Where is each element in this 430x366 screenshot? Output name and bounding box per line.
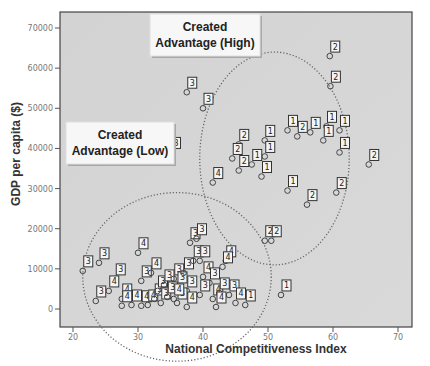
point-label: 2 bbox=[310, 191, 315, 200]
y-tick-label: 30000 bbox=[28, 185, 53, 194]
point-label: 2 bbox=[333, 73, 338, 82]
y-tick-label: 40000 bbox=[28, 144, 53, 153]
point-label: 1 bbox=[329, 113, 334, 122]
point-label: 4 bbox=[216, 169, 221, 178]
x-axis-title: National Competitiveness Index bbox=[165, 342, 347, 356]
point-label: 4 bbox=[190, 293, 195, 302]
point-label: 1 bbox=[290, 117, 295, 126]
point-label: 4 bbox=[177, 285, 182, 294]
point-label: 1 bbox=[313, 119, 318, 128]
point-label: 2 bbox=[333, 43, 338, 52]
annotation-box: CreatedAdvantage (High) bbox=[150, 14, 262, 58]
x-tick-label: 60 bbox=[328, 333, 338, 342]
point-label: 3 bbox=[190, 277, 195, 286]
x-axis: 203040506070 bbox=[68, 327, 403, 342]
y-tick-label: 0 bbox=[48, 305, 53, 314]
annotation-text: Created bbox=[183, 20, 228, 34]
point-label: 1 bbox=[268, 143, 273, 152]
y-tick-label: 50000 bbox=[28, 104, 53, 113]
point-label: 4 bbox=[219, 293, 224, 302]
point-label: 3 bbox=[102, 249, 107, 258]
point-label: 1 bbox=[290, 177, 295, 186]
y-tick-label: 70000 bbox=[28, 24, 53, 33]
point-label: 1 bbox=[248, 291, 253, 300]
point-label: 2 bbox=[242, 131, 247, 140]
point-label: 3 bbox=[222, 279, 227, 288]
y-tick-label: 60000 bbox=[28, 64, 53, 73]
y-axis-title: GDP per capita ($) bbox=[9, 102, 23, 206]
point-label: 4 bbox=[154, 259, 159, 268]
point-label: 4 bbox=[125, 292, 130, 301]
point-label: 4 bbox=[141, 239, 146, 248]
point-label: 3 bbox=[203, 247, 208, 256]
point-label: 2 bbox=[235, 145, 240, 154]
point-label: 3 bbox=[212, 269, 217, 278]
point-label: 1 bbox=[284, 281, 289, 290]
point-label: 4 bbox=[225, 253, 230, 262]
point-label: 1 bbox=[268, 127, 273, 136]
point-label: 2 bbox=[339, 179, 344, 188]
point-label: 3 bbox=[118, 265, 123, 274]
point-label: 1 bbox=[264, 163, 269, 172]
point-label: 3 bbox=[86, 257, 91, 266]
point-label: 3 bbox=[180, 273, 185, 282]
point-label: 4 bbox=[238, 289, 243, 298]
point-label: 3 bbox=[190, 79, 195, 88]
point-label: 4 bbox=[134, 291, 139, 300]
x-tick-label: 40 bbox=[198, 333, 208, 342]
point-label: 3 bbox=[99, 287, 104, 296]
point-label: 1 bbox=[342, 117, 347, 126]
point-label: 1 bbox=[342, 139, 347, 148]
point-label: 1 bbox=[255, 151, 260, 160]
annotation-box: CreatedAdvantage (Low) bbox=[66, 122, 176, 166]
x-tick-label: 50 bbox=[263, 333, 273, 342]
annotation-text: Advantage (High) bbox=[155, 36, 254, 50]
point-label: 2 bbox=[242, 157, 247, 166]
point-label: 2 bbox=[274, 227, 279, 236]
x-tick-label: 70 bbox=[393, 333, 403, 342]
point-label: 3 bbox=[199, 225, 204, 234]
y-axis: 010000200003000040000500006000070000 bbox=[28, 24, 60, 314]
y-tick-label: 20000 bbox=[28, 225, 53, 234]
x-tick-label: 20 bbox=[68, 333, 78, 342]
x-tick-label: 30 bbox=[133, 333, 143, 342]
point-label: 4 bbox=[112, 277, 117, 286]
y-tick-label: 10000 bbox=[28, 265, 53, 274]
point-label: 2 bbox=[300, 123, 305, 132]
point-label: 3 bbox=[206, 95, 211, 104]
annotation-text: Advantage (Low) bbox=[72, 144, 169, 158]
point-label: 1 bbox=[326, 127, 331, 136]
scatter-chart: 010000200003000040000500006000070000 203… bbox=[0, 0, 430, 366]
point-label: 2 bbox=[372, 151, 377, 160]
point-label: 3 bbox=[203, 281, 208, 290]
annotation-text: Created bbox=[98, 128, 143, 142]
